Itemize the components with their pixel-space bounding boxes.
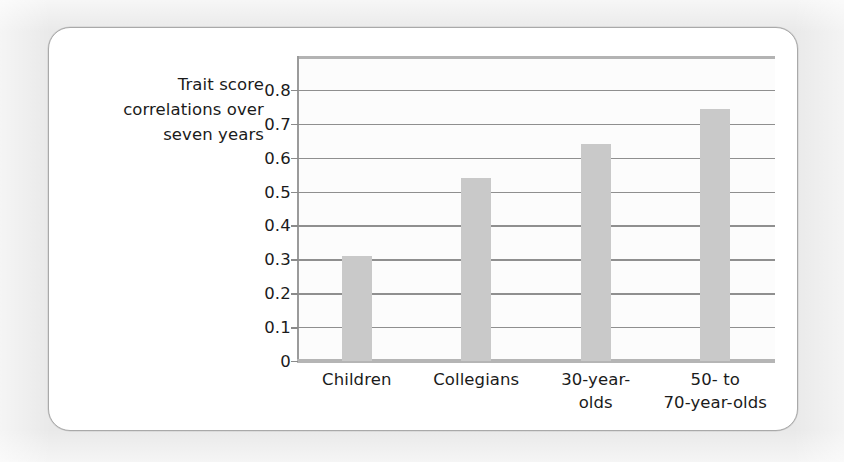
x-axis-category-labels: ChildrenCollegians30-year-olds50- to70-y… bbox=[297, 368, 775, 430]
y-axis-tick-label: 0.7 bbox=[247, 114, 291, 133]
y-axis-title-line-3: seven years bbox=[59, 122, 264, 147]
y-axis-tick-mark bbox=[291, 225, 298, 226]
bar bbox=[461, 178, 491, 361]
x-axis-category-label-line: 50- to bbox=[656, 368, 776, 391]
y-axis-tick-label: 0.8 bbox=[247, 80, 291, 99]
chart-card-panel: Trait score correlations over seven year… bbox=[48, 27, 798, 431]
y-axis-tick-mark bbox=[291, 361, 298, 362]
y-axis-tick-mark bbox=[291, 90, 298, 91]
y-axis-title-line-2: correlations over bbox=[59, 97, 264, 122]
y-axis-tick-label: 0.2 bbox=[247, 284, 291, 303]
y-axis-tick-label: 0.1 bbox=[247, 318, 291, 337]
y-axis-tick-mark bbox=[291, 158, 298, 159]
y-axis-title-line-1: Trait score bbox=[59, 72, 264, 97]
plot-top-frame bbox=[297, 56, 775, 59]
gridline bbox=[297, 90, 775, 91]
y-axis-tick-label: 0.3 bbox=[247, 250, 291, 269]
y-axis-tick-label: 0.6 bbox=[247, 148, 291, 167]
x-axis-category-label: Collegians bbox=[417, 368, 537, 391]
bar-chart: Trait score correlations over seven year… bbox=[49, 28, 799, 432]
x-axis-category-label: 30-year-olds bbox=[536, 368, 656, 414]
x-axis-category-label-line: Collegians bbox=[417, 368, 537, 391]
x-axis-category-label: Children bbox=[297, 368, 417, 391]
y-axis-tick-mark bbox=[291, 192, 298, 193]
y-axis-line bbox=[297, 56, 299, 361]
y-axis-title: Trait score correlations over seven year… bbox=[59, 72, 264, 147]
y-axis-tick-label: 0.5 bbox=[247, 182, 291, 201]
plot-area bbox=[297, 56, 775, 361]
y-axis-tick-label: 0 bbox=[247, 352, 291, 371]
bar bbox=[700, 109, 730, 361]
y-axis-tick-label: 0.4 bbox=[247, 216, 291, 235]
y-axis-tick-mark bbox=[291, 327, 298, 328]
scanned-page-background: Trait score correlations over seven year… bbox=[0, 0, 844, 462]
x-axis-category-label-line: 30-year- bbox=[536, 368, 656, 391]
y-axis-tick-labels: 00.10.20.30.40.50.60.70.8 bbox=[247, 28, 291, 432]
x-axis-category-label-line: 70-year-olds bbox=[656, 391, 776, 414]
x-axis-category-label-line: olds bbox=[536, 391, 656, 414]
x-axis-category-label-line: Children bbox=[297, 368, 417, 391]
y-axis-tick-mark bbox=[291, 124, 298, 125]
y-axis-tick-mark bbox=[291, 259, 298, 260]
bar bbox=[581, 144, 611, 361]
x-axis-category-label: 50- to70-year-olds bbox=[656, 368, 776, 414]
bar bbox=[342, 256, 372, 361]
y-axis-tick-mark bbox=[291, 293, 298, 294]
